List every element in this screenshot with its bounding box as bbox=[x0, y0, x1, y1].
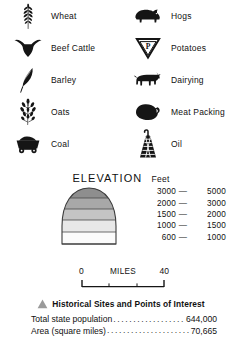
elevation-low-value: 2000 bbox=[142, 199, 176, 208]
elevation-unit-label: Feet bbox=[151, 174, 169, 184]
barley-head-icon bbox=[8, 65, 48, 95]
scale-ruler-graphic bbox=[81, 279, 165, 289]
svg-text:P: P bbox=[146, 42, 151, 51]
hog-icon bbox=[128, 1, 168, 31]
oat-panicle-icon bbox=[8, 97, 48, 127]
elevation-range-dash: — bbox=[176, 199, 190, 208]
wheat-stalk-icon bbox=[8, 1, 48, 31]
resource-symbol-legend: Wheat Beef Cattle bbox=[0, 0, 242, 163]
historical-sites-label: Historical Sites and Points of Interest bbox=[52, 299, 204, 309]
legend-label-meat-packing: Meat Packing bbox=[168, 107, 225, 117]
legend-item-oats: Oats bbox=[8, 96, 123, 128]
legend-label-beef-cattle: Beef Cattle bbox=[48, 43, 95, 53]
elevation-heading: ELEVATIONFeet bbox=[0, 168, 242, 186]
legend-item-wheat: Wheat bbox=[8, 0, 123, 32]
legend-label-potatoes: Potatoes bbox=[168, 43, 206, 53]
elevation-title: ELEVATION bbox=[72, 172, 142, 184]
statistic-row: Total state population .................… bbox=[31, 314, 217, 326]
elevation-range-dash: — bbox=[176, 221, 190, 230]
statistic-leader-dots: ........................................ bbox=[113, 314, 185, 324]
elevation-high-value: 1500 bbox=[190, 221, 226, 230]
statistic-label: Total state population bbox=[31, 314, 112, 324]
map-scale-bar: 0 MILES 40 bbox=[0, 266, 242, 292]
elevation-range-dash: — bbox=[176, 210, 190, 219]
legend-item-dairying: Dairying bbox=[128, 64, 242, 96]
scale-units-label: MILES bbox=[81, 267, 165, 276]
elevation-band-row: 3000 — 5000 bbox=[122, 186, 226, 197]
elevation-low-value: 600 bbox=[142, 233, 176, 242]
statistic-leader-dots: ........................................ bbox=[107, 325, 190, 335]
elevation-band-row: 2000 — 3000 bbox=[122, 197, 226, 208]
elevation-low-value: 1000 bbox=[142, 221, 176, 230]
elevation-legend: ELEVATIONFeet bbox=[0, 168, 242, 256]
elevation-low-value: 1500 bbox=[142, 210, 176, 219]
legend-label-hogs: Hogs bbox=[168, 11, 192, 21]
elevation-range-dash: — bbox=[176, 187, 190, 196]
elevation-value-list: 3000 — 5000 2000 — 3000 1500 — 2000 1000… bbox=[122, 186, 226, 243]
legend-column-left: Wheat Beef Cattle bbox=[8, 0, 123, 160]
elevation-range-dash: — bbox=[176, 233, 190, 242]
elevation-low-value: 3000 bbox=[142, 187, 176, 196]
historical-sites-note: Historical Sites and Points of Interest bbox=[0, 299, 242, 309]
elevation-high-value: 2000 bbox=[190, 210, 226, 219]
statistic-value: 70,665 bbox=[191, 326, 217, 336]
elevation-high-value: 5000 bbox=[190, 187, 226, 196]
legend-label-dairying: Dairying bbox=[168, 75, 204, 85]
dairy-cow-icon bbox=[128, 65, 168, 95]
legend-item-coal: Coal bbox=[8, 128, 123, 160]
legend-column-right: Hogs P Potatoes bbox=[128, 0, 242, 160]
legend-item-barley: Barley bbox=[8, 64, 123, 96]
scale-end-label: 40 bbox=[160, 266, 169, 276]
elevation-band-row: 1500 — 2000 bbox=[122, 209, 226, 220]
legend-label-oil: Oil bbox=[168, 139, 182, 149]
elevation-high-value: 3000 bbox=[190, 199, 226, 208]
scale-bar-inner: 0 MILES 40 bbox=[81, 266, 165, 292]
legend-label-barley: Barley bbox=[48, 75, 76, 85]
legend-item-oil: Oil bbox=[128, 128, 242, 160]
steer-head-icon bbox=[8, 33, 48, 63]
potato-triangle-icon: P bbox=[128, 33, 168, 63]
statistic-label: Area (square miles) bbox=[31, 326, 106, 336]
ham-icon bbox=[128, 97, 168, 127]
statistic-value: 644,000 bbox=[186, 314, 217, 324]
statistic-row: Area (square miles) ....................… bbox=[31, 326, 217, 338]
elevation-band-row: 600 — 1000 bbox=[122, 232, 226, 243]
elevation-hill-diagram bbox=[58, 186, 120, 250]
legend-label-oats: Oats bbox=[48, 107, 70, 117]
legend-label-wheat: Wheat bbox=[48, 11, 77, 21]
legend-item-potatoes: P Potatoes bbox=[128, 32, 242, 64]
coal-cart-icon bbox=[8, 129, 48, 159]
elevation-band-row: 1000 — 1500 bbox=[122, 220, 226, 231]
legend-item-hogs: Hogs bbox=[128, 0, 242, 32]
state-statistics-table: Total state population .................… bbox=[31, 314, 217, 337]
legend-item-beef-cattle: Beef Cattle bbox=[8, 32, 123, 64]
legend-item-meat-packing: Meat Packing bbox=[128, 96, 242, 128]
legend-label-coal: Coal bbox=[48, 139, 69, 149]
elevation-high-value: 1000 bbox=[190, 233, 226, 242]
historical-site-triangle-icon bbox=[37, 299, 48, 309]
oil-derrick-icon bbox=[128, 129, 168, 159]
